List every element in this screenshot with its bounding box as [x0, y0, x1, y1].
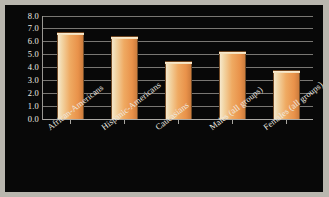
x-axis-category-labels: African-AmericansHispanic-AmericansCauca…	[5, 123, 323, 192]
y-axis-tick-label: 1.0	[13, 102, 39, 111]
chart-canvas: 8.07.06.05.04.03.02.01.00.0 African-Amer…	[5, 5, 323, 192]
y-axis-tick-labels: 8.07.06.05.04.03.02.01.00.0	[9, 16, 39, 119]
y-axis-tick-label: 3.0	[13, 76, 39, 85]
gridline	[43, 16, 313, 17]
y-axis-tick-label: 8.0	[13, 12, 39, 21]
gridline	[43, 41, 313, 42]
y-axis-tick-label: 7.0	[13, 24, 39, 33]
y-axis-tick-label: 5.0	[13, 50, 39, 59]
y-axis-tick-label: 2.0	[13, 89, 39, 98]
y-axis-tick-label: 0.0	[13, 115, 39, 124]
gridline	[43, 28, 313, 29]
y-axis-tick-label: 6.0	[13, 37, 39, 46]
gridline	[43, 54, 313, 55]
chart-frame: 8.07.06.05.04.03.02.01.00.0 African-Amer…	[0, 0, 329, 197]
y-axis-tick-label: 4.0	[13, 63, 39, 72]
